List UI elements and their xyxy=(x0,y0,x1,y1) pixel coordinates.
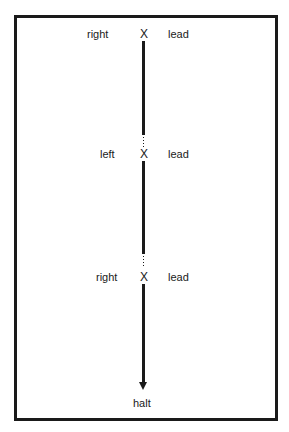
station-2-x-mark: X xyxy=(138,148,150,160)
path-segment-2 xyxy=(142,161,145,254)
station-2-side-label: left xyxy=(100,148,115,160)
arrow-down-icon xyxy=(139,382,147,390)
path-segment-1 xyxy=(142,41,145,135)
station-3-action-label: lead xyxy=(168,271,189,283)
station-1-side-label: right xyxy=(87,28,108,40)
end-label: halt xyxy=(133,397,151,409)
station-3-side-label: right xyxy=(96,271,117,283)
diagram-frame xyxy=(14,15,278,421)
dotted-connector-2 xyxy=(143,256,144,268)
station-1-action-label: lead xyxy=(168,28,189,40)
station-2-action-label: lead xyxy=(168,148,189,160)
station-3-x-mark: X xyxy=(138,271,150,283)
path-segment-3 xyxy=(142,284,145,383)
station-1-x-mark: X xyxy=(138,28,150,40)
